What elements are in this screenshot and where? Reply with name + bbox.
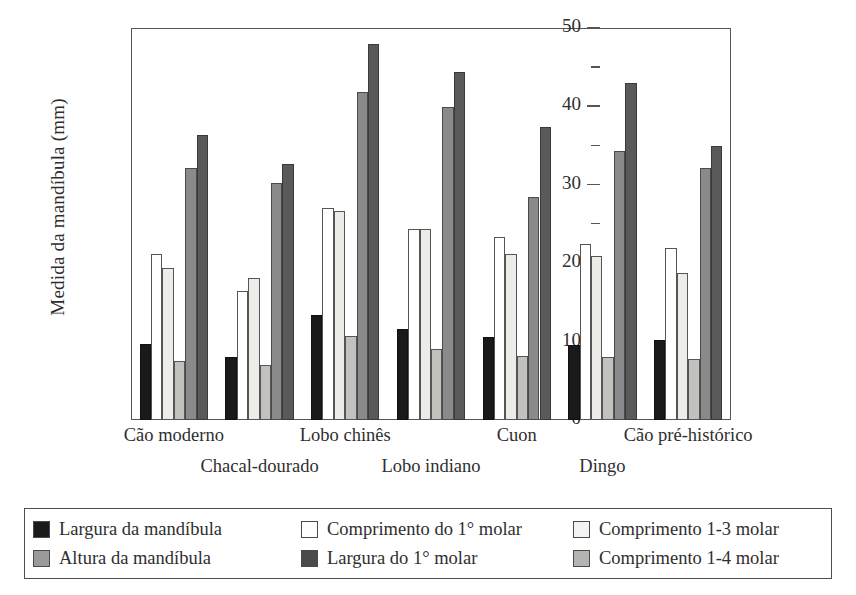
bar — [614, 151, 625, 420]
bar-group — [397, 28, 465, 420]
bar — [568, 345, 579, 420]
legend-item: Largura da mandíbula — [33, 519, 301, 540]
bar — [151, 254, 162, 420]
bar — [334, 211, 345, 420]
bar — [197, 135, 208, 420]
bar-group — [483, 28, 551, 420]
bars-layer — [131, 28, 731, 420]
bar — [140, 344, 151, 420]
legend-item: Comprimento 1-3 molar — [573, 519, 825, 540]
bar — [483, 337, 494, 420]
bar-group — [654, 28, 722, 420]
bar — [602, 357, 613, 421]
bar — [454, 72, 465, 420]
bar — [665, 248, 676, 420]
bar-group — [140, 28, 208, 420]
bar-group — [568, 28, 636, 420]
legend-label: Altura da mandíbula — [59, 548, 211, 569]
bar — [711, 146, 722, 420]
bar — [677, 273, 688, 420]
legend: Largura da mandíbulaComprimento do 1° mo… — [24, 508, 832, 579]
legend-label: Comprimento do 1° molar — [327, 519, 522, 540]
bar — [271, 183, 282, 420]
y-axis-title: Medida da mandíbula (mm) — [47, 0, 69, 417]
x-axis-label: Dingo — [579, 456, 625, 477]
bar — [162, 268, 173, 420]
legend-item: Comprimento do 1° molar — [301, 519, 573, 540]
bar — [442, 107, 453, 420]
bar — [368, 44, 379, 420]
bar — [431, 349, 442, 420]
bar — [591, 256, 602, 420]
bar-group — [311, 28, 379, 420]
legend-swatch-icon — [301, 521, 318, 538]
legend-swatch-icon — [573, 550, 590, 567]
x-axis-label: Chacal-dourado — [200, 456, 318, 477]
bar — [311, 315, 322, 420]
x-axis-label: Cuon — [497, 425, 537, 446]
bar — [357, 92, 368, 420]
bar — [688, 359, 699, 420]
bar — [322, 208, 333, 420]
bar — [174, 361, 185, 420]
bar — [505, 254, 516, 420]
legend-label: Comprimento 1-3 molar — [599, 519, 779, 540]
bar — [185, 168, 196, 420]
bar — [494, 237, 505, 420]
bar — [420, 229, 431, 420]
bar — [345, 336, 356, 420]
x-axis-label: Lobo indiano — [381, 456, 480, 477]
bar — [237, 291, 248, 420]
bar-group — [225, 28, 293, 420]
bar — [225, 357, 236, 420]
legend-label: Largura do 1° molar — [327, 548, 477, 569]
legend-item: Largura do 1° molar — [301, 548, 573, 569]
legend-swatch-icon — [573, 521, 590, 538]
bar — [625, 83, 636, 420]
legend-swatch-icon — [33, 521, 50, 538]
legend-item: Comprimento 1-4 molar — [573, 548, 825, 569]
bar — [408, 229, 419, 420]
legend-grid: Largura da mandíbulaComprimento do 1° mo… — [33, 515, 825, 573]
bar — [654, 340, 665, 420]
legend-swatch-icon — [33, 550, 50, 567]
bar — [282, 164, 293, 420]
legend-label: Comprimento 1-4 molar — [599, 548, 779, 569]
bar-chart-figure: Medida da mandíbula (mm) 01020304050 Cão… — [0, 0, 856, 595]
x-axis-label: Cão pré-histórico — [624, 425, 753, 446]
bar — [700, 168, 711, 420]
legend-swatch-icon — [301, 550, 318, 567]
bar — [517, 356, 528, 420]
legend-item: Altura da mandíbula — [33, 548, 301, 569]
bar — [397, 329, 408, 420]
x-axis-label: Cão moderno — [124, 425, 224, 446]
bar — [540, 127, 551, 420]
bar — [248, 278, 259, 420]
bar — [528, 197, 539, 420]
legend-label: Largura da mandíbula — [59, 519, 222, 540]
bar — [580, 244, 591, 420]
bar — [260, 365, 271, 420]
x-axis-label: Lobo chinês — [300, 425, 391, 446]
